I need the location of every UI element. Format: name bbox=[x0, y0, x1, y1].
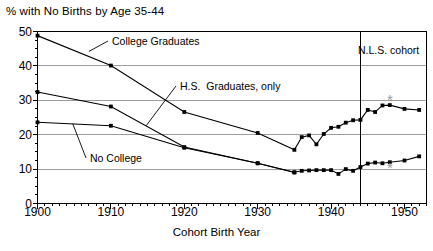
data-point-marker bbox=[315, 168, 319, 172]
series-line bbox=[38, 36, 420, 150]
data-point-marker bbox=[322, 168, 326, 172]
data-point-marker bbox=[109, 64, 113, 68]
data-point-marker bbox=[359, 165, 363, 169]
data-point-marker bbox=[403, 159, 407, 163]
data-point-marker bbox=[109, 105, 113, 109]
data-point-marker bbox=[366, 108, 370, 112]
data-point-marker bbox=[329, 168, 333, 172]
data-point-marker bbox=[36, 90, 40, 94]
data-point-marker bbox=[182, 110, 186, 114]
data-series bbox=[36, 120, 421, 175]
data-point-marker bbox=[300, 169, 304, 173]
data-point-marker bbox=[329, 126, 333, 130]
data-point-marker bbox=[182, 146, 186, 150]
chart-container: % with No Births by Age 35-44 Cohort Bir… bbox=[0, 0, 433, 251]
data-point-marker bbox=[366, 162, 370, 166]
data-point-marker bbox=[307, 169, 311, 173]
data-point-marker bbox=[300, 135, 304, 139]
data-point-marker bbox=[344, 167, 348, 171]
data-point-marker bbox=[351, 118, 355, 122]
plot-area: ** bbox=[0, 0, 433, 251]
annotation-leader-line bbox=[146, 86, 176, 126]
data-point-marker bbox=[307, 133, 311, 137]
data-point-marker bbox=[351, 169, 355, 173]
data-point-marker bbox=[381, 161, 385, 165]
data-point-marker bbox=[417, 108, 421, 112]
data-point-marker bbox=[292, 170, 296, 174]
data-point-marker bbox=[322, 132, 326, 136]
data-point-marker bbox=[109, 124, 113, 128]
data-point-marker bbox=[292, 148, 296, 152]
asterisk-marker-icon: * bbox=[387, 91, 393, 108]
asterisk-marker-icon: * bbox=[387, 159, 393, 176]
data-point-marker bbox=[381, 104, 385, 108]
data-point-marker bbox=[373, 161, 377, 165]
data-point-marker bbox=[417, 154, 421, 158]
annotation-leader-line bbox=[89, 41, 108, 51]
data-point-marker bbox=[403, 107, 407, 111]
data-point-marker bbox=[344, 121, 348, 125]
data-series bbox=[36, 34, 421, 152]
data-point-marker bbox=[36, 120, 40, 124]
data-point-marker bbox=[359, 118, 363, 122]
data-point-marker bbox=[36, 34, 40, 38]
annotation-leader-line bbox=[73, 124, 86, 158]
data-point-marker bbox=[315, 142, 319, 146]
data-point-marker bbox=[256, 131, 260, 135]
data-point-marker bbox=[337, 125, 341, 129]
data-point-marker bbox=[337, 172, 341, 176]
data-point-marker bbox=[373, 110, 377, 114]
data-point-marker bbox=[256, 161, 260, 165]
